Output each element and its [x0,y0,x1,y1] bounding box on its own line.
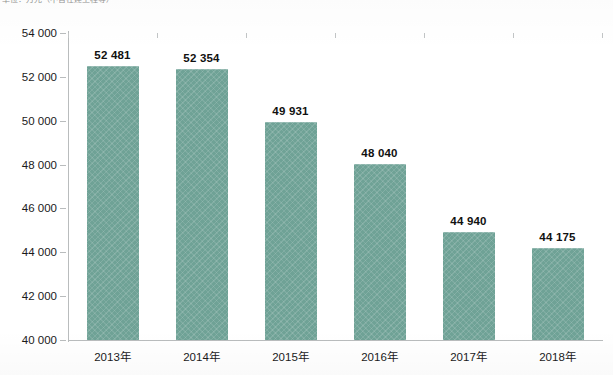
y-axis-tick [60,296,66,297]
y-axis-tick [60,77,66,78]
y-axis-tick-label: 50 000 [22,115,57,127]
bar-value-label: 52 354 [183,52,219,64]
bar [532,248,584,340]
x-axis-category-label: 2017年 [450,348,487,364]
bar-chart: 单位：万元（不含在建工程等） 54 00052 00050 00048 0004… [0,0,613,375]
x-axis-category-label: 2015年 [272,348,309,364]
x-axis-tick [602,33,603,38]
y-axis-tick [60,165,66,166]
y-axis-tick-label: 46 000 [22,202,57,214]
x-axis-tick [246,33,247,38]
y-axis-tick-label: 42 000 [22,290,57,302]
y-axis-tick-label: 52 000 [22,71,57,83]
x-axis-category-label: 2014年 [183,348,220,364]
y-axis-tick [60,208,66,209]
x-axis-category-label: 2016年 [361,348,398,364]
y-axis-tick-label: 48 000 [22,159,57,171]
x-axis-tick [335,33,336,38]
x-axis-category-label: 2018年 [539,348,576,364]
y-axis-tick [60,33,66,34]
y-axis-tick-label: 40 000 [22,334,57,346]
bar-value-label: 48 040 [361,147,397,159]
bar-value-label: 49 931 [272,105,308,117]
bar [354,164,406,340]
x-axis-tick [513,33,514,38]
clipped-title-fragment: 单位：万元（不含在建工程等） [2,0,217,5]
y-axis-tick [60,252,66,253]
x-axis-tick [157,33,158,38]
x-axis-tick [424,33,425,38]
bar [443,232,495,340]
x-axis-line [68,340,603,341]
bar [87,66,139,340]
plot-area: 54 00052 00050 00048 00046 00044 00042 0… [68,33,602,340]
x-axis-category-label: 2013年 [94,348,131,364]
bar [176,69,228,340]
x-axis-tick [68,33,69,38]
bar [265,122,317,340]
bar-value-label: 44 940 [450,215,486,227]
bar-value-label: 44 175 [539,231,575,243]
y-axis-tick-label: 44 000 [22,246,57,258]
bar-value-label: 52 481 [94,49,130,61]
y-axis-tick [60,121,66,122]
y-axis-tick [60,340,66,341]
y-axis-tick-label: 54 000 [22,27,57,39]
